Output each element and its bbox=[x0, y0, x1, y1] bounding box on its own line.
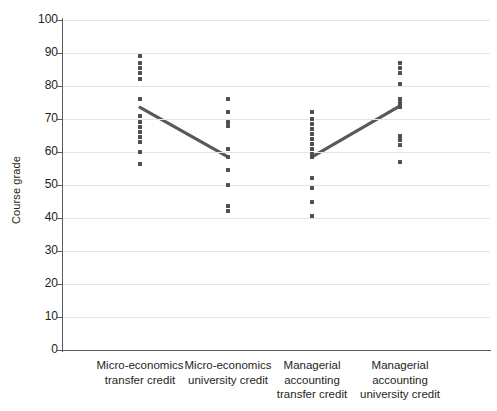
y-axis-tick-0: 0 bbox=[24, 343, 58, 355]
data-point bbox=[138, 77, 142, 81]
data-point bbox=[310, 122, 314, 126]
data-point bbox=[226, 155, 230, 159]
data-point bbox=[398, 82, 402, 86]
managerial-accounting-mean-line bbox=[312, 106, 400, 157]
gridline-100 bbox=[63, 20, 490, 21]
x-axis-label-line: university credit bbox=[342, 387, 458, 402]
data-point bbox=[310, 110, 314, 114]
data-point bbox=[138, 114, 142, 118]
data-point bbox=[398, 71, 402, 75]
y-axis-tickmark-30 bbox=[57, 251, 63, 252]
data-point bbox=[138, 125, 142, 129]
gridline-90 bbox=[63, 53, 490, 54]
data-point bbox=[226, 204, 230, 208]
gridline-60 bbox=[63, 152, 490, 153]
data-point bbox=[398, 101, 402, 105]
plot-area bbox=[63, 20, 490, 350]
data-point bbox=[398, 105, 402, 109]
y-axis-tickmark-60 bbox=[57, 152, 63, 153]
data-point bbox=[138, 71, 142, 75]
y-axis-tick-100: 100 bbox=[24, 13, 58, 25]
data-point bbox=[398, 134, 402, 138]
data-point bbox=[310, 117, 314, 121]
gridline-80 bbox=[63, 86, 490, 87]
gridline-50 bbox=[63, 185, 490, 186]
y-axis-tickmark-70 bbox=[57, 119, 63, 120]
data-point bbox=[310, 186, 314, 190]
gridline-30 bbox=[63, 251, 490, 252]
data-point bbox=[398, 160, 402, 164]
data-point bbox=[310, 127, 314, 131]
data-point bbox=[398, 143, 402, 147]
data-point bbox=[138, 66, 142, 70]
data-point bbox=[310, 137, 314, 141]
x-axis-label-line: accounting bbox=[342, 373, 458, 388]
y-axis-tick-40: 40 bbox=[24, 211, 58, 223]
x-axis-line bbox=[62, 350, 491, 351]
data-point bbox=[398, 61, 402, 65]
data-point bbox=[138, 130, 142, 134]
y-axis-tick-10: 10 bbox=[24, 310, 58, 322]
y-axis-tick-60: 60 bbox=[24, 145, 58, 157]
data-point bbox=[226, 110, 230, 114]
data-point bbox=[138, 150, 142, 154]
gridline-10 bbox=[63, 317, 490, 318]
data-point bbox=[226, 168, 230, 172]
y-axis-tickmark-90 bbox=[57, 53, 63, 54]
data-point bbox=[310, 155, 314, 159]
y-axis-tick-50: 50 bbox=[24, 178, 58, 190]
gridline-40 bbox=[63, 218, 490, 219]
gridline-20 bbox=[63, 284, 490, 285]
y-axis-tick-70: 70 bbox=[24, 112, 58, 124]
data-point bbox=[138, 120, 142, 124]
y-axis-tickmark-10 bbox=[57, 317, 63, 318]
data-point bbox=[138, 135, 142, 139]
y-axis-tick-30: 30 bbox=[24, 244, 58, 256]
data-point bbox=[310, 142, 314, 146]
data-point bbox=[138, 54, 142, 58]
data-point bbox=[226, 147, 230, 151]
y-axis-tick-80: 80 bbox=[24, 79, 58, 91]
data-point bbox=[226, 97, 230, 101]
data-point bbox=[138, 140, 142, 144]
y-axis-tickmark-80 bbox=[57, 86, 63, 87]
y-axis-tick-20: 20 bbox=[24, 277, 58, 289]
y-axis-tick-labels: 1009080706050403020100 bbox=[20, 0, 58, 411]
data-point bbox=[398, 66, 402, 70]
y-axis-tickmark-20 bbox=[57, 284, 63, 285]
gridline-70 bbox=[63, 119, 490, 120]
scatter-chart: Course grade 1009080706050403020100 Micr… bbox=[0, 0, 497, 411]
y-axis-tickmark-0 bbox=[57, 350, 63, 351]
data-point bbox=[226, 209, 230, 213]
y-axis-tickmark-100 bbox=[57, 20, 63, 21]
x-axis-label-3: Managerialaccountinguniversity credit bbox=[342, 358, 458, 402]
y-axis-tickmark-50 bbox=[57, 185, 63, 186]
micro-economics-mean-line bbox=[140, 107, 228, 157]
data-point bbox=[310, 147, 314, 151]
data-point bbox=[310, 200, 314, 204]
data-point bbox=[310, 214, 314, 218]
data-point bbox=[226, 124, 230, 128]
data-point bbox=[310, 132, 314, 136]
data-point bbox=[138, 97, 142, 101]
data-point bbox=[138, 162, 142, 166]
data-point bbox=[226, 183, 230, 187]
x-axis-label-line: Managerial bbox=[342, 358, 458, 373]
data-point bbox=[310, 176, 314, 180]
y-axis-tick-90: 90 bbox=[24, 46, 58, 58]
data-point bbox=[398, 138, 402, 142]
data-point bbox=[138, 61, 142, 65]
y-axis-tickmark-40 bbox=[57, 218, 63, 219]
